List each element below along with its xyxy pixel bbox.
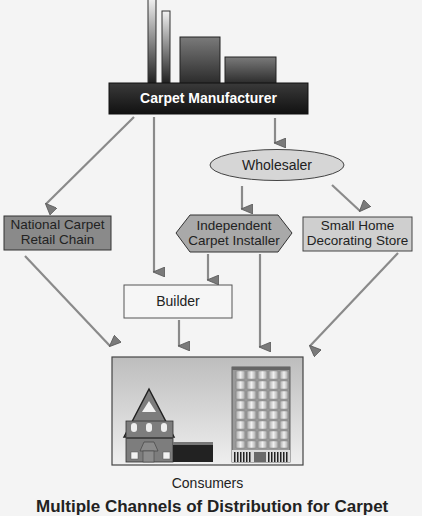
- national-chain-label-line2: Retail Chain: [21, 233, 95, 248]
- national-chain-node: National Carpet Retail Chain: [4, 216, 111, 250]
- diagram-title: Multiple Channels of Distribution for Ca…: [36, 498, 422, 516]
- small-store-node: Small Home Decorating Store: [303, 217, 412, 251]
- installer-label-line2: Carpet Installer: [188, 234, 280, 249]
- installer-node: Independent Carpet Installer: [176, 215, 292, 252]
- wholesaler-node: Wholesaler: [210, 150, 344, 181]
- office-tower-icon: [232, 367, 290, 462]
- wholesaler-label: Wholesaler: [242, 158, 312, 173]
- consumers-scene: [112, 357, 303, 465]
- carpet-manufacturer-node: Carpet Manufacturer: [109, 84, 308, 114]
- wall-icon: [173, 444, 213, 462]
- small-store-label-line2: Decorating Store: [307, 234, 408, 249]
- national-chain-label-line1: National Carpet: [11, 218, 105, 233]
- builder-label: Builder: [156, 294, 200, 309]
- installer-label-line1: Independent: [196, 219, 271, 234]
- builder-node: Builder: [124, 285, 232, 318]
- consumers-label: Consumers: [112, 476, 303, 491]
- small-store-label-line1: Small Home: [321, 219, 395, 234]
- carpet-manufacturer-label: Carpet Manufacturer: [140, 91, 277, 106]
